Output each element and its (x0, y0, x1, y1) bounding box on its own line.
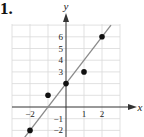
y-tick-label: 4 (59, 55, 64, 65)
x-axis-arrow-icon (128, 104, 137, 110)
fit-line (25, 25, 111, 137)
y-tick-label: −2 (53, 125, 63, 135)
y-tick-label: −1 (53, 114, 63, 124)
y-axis-arrow-icon (63, 13, 69, 22)
y-axis-label: y (63, 0, 69, 12)
data-point (99, 34, 105, 40)
data-point (45, 93, 51, 99)
data-point (81, 69, 87, 75)
y-tick-label: 6 (59, 32, 64, 42)
x-tick-label: 1 (82, 109, 87, 119)
x-axis-label: x (137, 101, 143, 113)
y-tick-label: 5 (59, 44, 64, 54)
data-point (27, 128, 33, 134)
x-tick-label: 2 (100, 109, 105, 119)
data-point (63, 81, 69, 87)
y-tick-label: 3 (59, 67, 64, 77)
x-tick-label: −2 (25, 109, 35, 119)
scatter-plot: xy−212−2−13456 (0, 0, 144, 137)
